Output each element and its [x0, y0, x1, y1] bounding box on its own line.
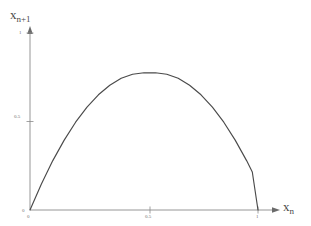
- y-axis-label-subscript: n+1: [17, 14, 31, 24]
- y-tick-label-1: 1: [19, 30, 22, 35]
- plot-background: [0, 0, 311, 226]
- y-tick-label-0point5: 0.5: [14, 114, 20, 119]
- y-axis-label: xn+1: [10, 8, 31, 21]
- x-tick-label-1: 1: [256, 214, 259, 219]
- x-axis-label-subscript: n: [290, 206, 295, 216]
- y-tick-label-0: 0: [22, 208, 25, 213]
- y-axis-label-base: x: [10, 7, 17, 22]
- x-axis-label: xn: [283, 200, 294, 213]
- x-axis-label-base: x: [283, 199, 290, 214]
- x-tick-label-0: 0: [27, 214, 30, 219]
- logistic-map-plot: [0, 0, 311, 226]
- x-tick-label-0point5: 0.5: [145, 214, 151, 219]
